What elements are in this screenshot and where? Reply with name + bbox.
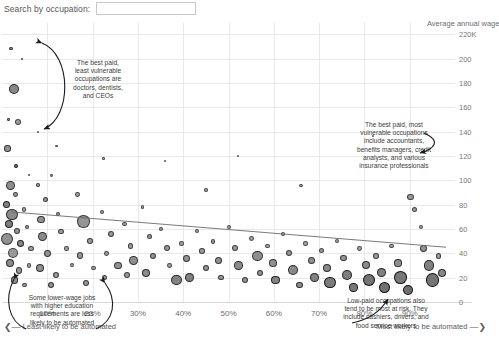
trendline-path xyxy=(11,212,446,247)
annotation-best-paid-most-vulnerable: The best paid, most vulnerable occupatio… xyxy=(342,121,446,170)
y-axis-tick-label: 200 xyxy=(459,54,472,63)
x-axis-tick-label: 60% xyxy=(266,309,282,318)
y-axis-tick-label: 120 xyxy=(459,151,472,160)
x-axis-tick-label: 30% xyxy=(130,309,146,318)
y-axis-tick-label: 100 xyxy=(459,176,472,185)
annotation-lower-wage-higher-education: Some lower-wage jobs with higher educati… xyxy=(8,294,116,327)
y-axis-tick-label: 220K xyxy=(459,30,477,39)
x-axis-tick-label: 50% xyxy=(220,309,236,318)
y-axis-tick-label: 160 xyxy=(459,103,472,112)
arrow-right-icon: —❯ xyxy=(469,322,486,332)
annotation-best-paid-least-vulnerable: The best paid, least vulnerable occupati… xyxy=(46,59,150,100)
y-axis-tick-label: 80 xyxy=(459,200,467,209)
y-axis-tick-label: 180 xyxy=(459,78,472,87)
y-axis-tick-label: 60 xyxy=(459,224,467,233)
search-label: Search by occupation: xyxy=(4,4,90,14)
x-axis-tick-label: 40% xyxy=(175,309,191,318)
y-axis-tick-label: 0 xyxy=(459,298,463,307)
annotation-low-paid-most-at-risk: Low-paid occupations also tend to be mos… xyxy=(322,297,450,330)
y-axis-tick-label: 40 xyxy=(459,249,467,258)
search-input[interactable] xyxy=(96,2,196,15)
bubble-chart: Average annual wage 02040608010012014016… xyxy=(0,17,490,339)
y-axis-tick-label: 20 xyxy=(459,273,467,282)
search-bar: Search by occupation: xyxy=(4,1,486,16)
y-axis-tick-label: 140 xyxy=(459,127,472,136)
